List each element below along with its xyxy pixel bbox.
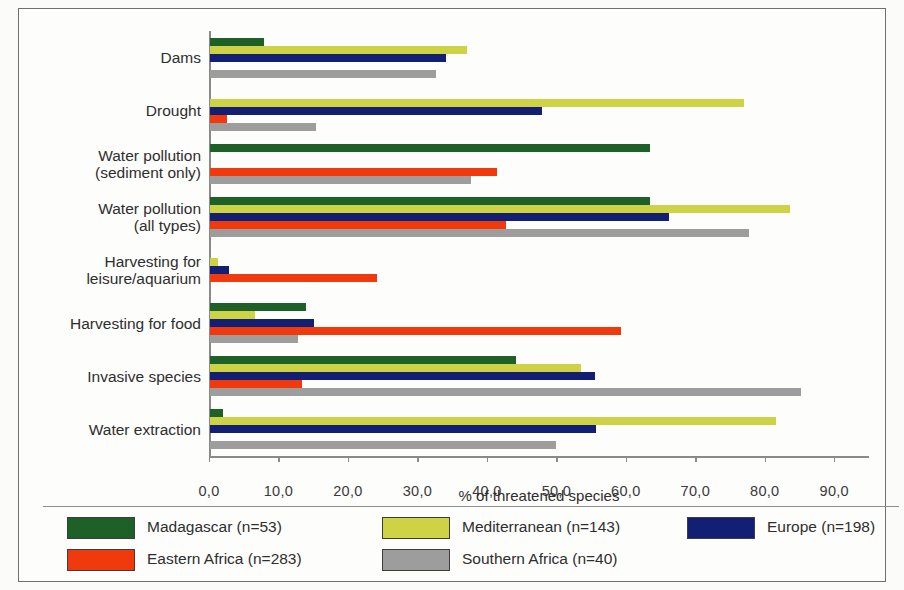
bar — [210, 303, 306, 311]
legend-swatch — [67, 517, 135, 539]
x-axis-tick — [626, 456, 627, 462]
legend-label: Mediterranean (n=143) — [462, 518, 620, 536]
category-label: Water extraction — [26, 421, 201, 438]
bar — [210, 319, 314, 327]
category-label-line: Dams — [26, 49, 201, 66]
legend-swatch — [382, 549, 450, 571]
category-label: Dams — [26, 49, 201, 66]
category-label-line: Invasive species — [26, 368, 201, 385]
bar — [210, 168, 497, 176]
category-label-line: Drought — [26, 102, 201, 119]
category-axis-labels: DamsDroughtWater pollution(sediment only… — [19, 31, 201, 456]
bar — [210, 70, 436, 78]
category-label-line: leisure/aquarium — [26, 270, 201, 287]
category-label: Water pollution(all types) — [26, 200, 201, 234]
x-axis-tick — [487, 456, 488, 462]
chart-legend: Madagascar (n=53)Mediterranean (n=143)Eu… — [67, 517, 867, 575]
x-axis-tick — [695, 456, 696, 462]
category-label: Water pollution(sediment only) — [26, 147, 201, 181]
category-label: Invasive species — [26, 368, 201, 385]
x-axis-tick — [209, 456, 210, 462]
x-axis-tick — [278, 456, 279, 462]
bar — [210, 417, 776, 425]
bar — [210, 409, 223, 417]
legend-swatch — [382, 517, 450, 539]
bar — [210, 388, 801, 396]
legend-label: Southern Africa (n=40) — [462, 550, 618, 568]
bar — [210, 107, 542, 115]
x-axis-tick — [348, 456, 349, 462]
bar — [210, 335, 298, 343]
legend-label: Eastern Africa (n=283) — [147, 550, 302, 568]
category-label-line: (all types) — [26, 217, 201, 234]
category-label-line: Harvesting for — [26, 253, 201, 270]
bar — [210, 221, 506, 229]
plot-area: 0,010,020,030,040,050,060,070,080,090,0 — [209, 31, 869, 456]
legend-separator — [43, 506, 899, 507]
bar — [210, 327, 621, 335]
category-label: Harvesting for food — [26, 315, 201, 332]
bar — [210, 115, 227, 123]
legend-label: Madagascar (n=53) — [147, 518, 282, 536]
x-axis-title: % of threatened species — [209, 487, 869, 504]
x-axis-tick — [834, 456, 835, 462]
x-axis-tick — [417, 456, 418, 462]
category-label-line: Harvesting for food — [26, 315, 201, 332]
bar — [210, 356, 516, 364]
bar — [210, 274, 377, 282]
bar — [210, 213, 669, 221]
x-axis-line — [209, 456, 869, 458]
category-label: Harvesting forleisure/aquarium — [26, 253, 201, 287]
category-label: Drought — [26, 102, 201, 119]
legend-swatch — [687, 517, 755, 539]
legend-swatch — [67, 549, 135, 571]
bar — [210, 176, 471, 184]
bar — [210, 364, 581, 372]
bar — [210, 266, 229, 274]
x-axis-tick — [556, 456, 557, 462]
legend-label: Europe (n=198) — [767, 518, 875, 536]
category-label-line: Water pollution — [26, 147, 201, 164]
bar — [210, 380, 302, 388]
figure-frame: DamsDroughtWater pollution(sediment only… — [18, 8, 886, 582]
bar — [210, 372, 595, 380]
bar — [210, 123, 316, 131]
bar — [210, 205, 790, 213]
bar — [210, 441, 556, 449]
category-label-line: Water extraction — [26, 421, 201, 438]
bar — [210, 258, 218, 266]
bar — [210, 197, 650, 205]
category-label-line: (sediment only) — [26, 164, 201, 181]
category-label-line: Water pollution — [26, 200, 201, 217]
bar — [210, 38, 264, 46]
bar — [210, 144, 650, 152]
bar — [210, 99, 744, 107]
bar — [210, 311, 255, 319]
bar — [210, 46, 467, 54]
x-axis-tick — [765, 456, 766, 462]
bar — [210, 229, 749, 237]
bar — [210, 54, 446, 62]
bar — [210, 425, 596, 433]
